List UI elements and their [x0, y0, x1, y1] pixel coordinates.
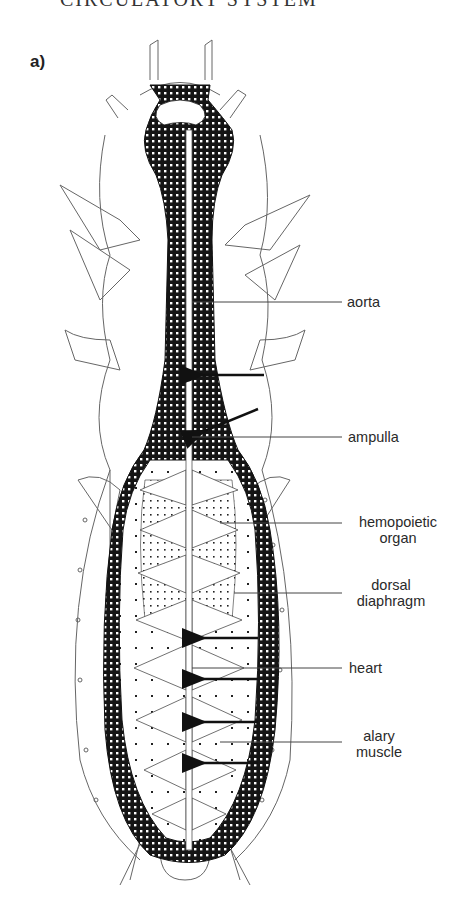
label-dorsal-diaphragm: dorsal diaphragm — [346, 577, 436, 609]
larva-circulatory-diagram — [0, 0, 473, 919]
label-aorta: aorta — [347, 294, 380, 310]
dorsal-vessel — [186, 130, 192, 850]
label-hemopoietic-line1: hemopoietic — [348, 514, 448, 530]
label-alary-line2: muscle — [349, 744, 409, 760]
label-dorsal-line2: diaphragm — [346, 593, 436, 609]
label-ampulla: ampulla — [348, 429, 399, 445]
label-hemopoietic-organ: hemopoietic organ — [348, 514, 448, 546]
label-dorsal-line1: dorsal — [346, 577, 436, 593]
label-heart: heart — [349, 660, 382, 676]
label-hemopoietic-line2: organ — [348, 530, 448, 546]
label-alary-muscle: alary muscle — [349, 728, 409, 760]
label-alary-line1: alary — [349, 728, 409, 744]
